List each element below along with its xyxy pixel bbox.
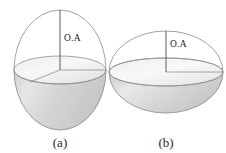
- figure-container: O.A (a) O.A (b): [0, 0, 226, 153]
- optic-axis-label-b: O.A: [170, 39, 187, 49]
- panel-caption-b: (b): [158, 135, 173, 150]
- panel-b: O.A (b): [109, 31, 223, 150]
- ellipsoid-figure-svg: O.A (a) O.A (b): [0, 0, 226, 153]
- optic-axis-label-a: O.A: [64, 33, 81, 43]
- panel-caption-a: (a): [53, 135, 67, 150]
- panel-a: O.A (a): [14, 10, 106, 150]
